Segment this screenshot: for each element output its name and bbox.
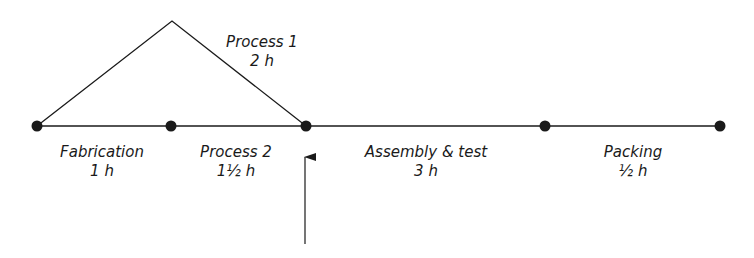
assembly-label: Assembly & test	[364, 143, 488, 161]
process-diagram: Process 1 2 h Fabrication 1 h Process 2 …	[0, 0, 754, 258]
process-1-label: Process 1	[226, 33, 298, 51]
fabrication-label: Fabrication	[60, 143, 144, 161]
packing-label: Packing	[604, 143, 662, 161]
process-1-duration: 2 h	[250, 52, 274, 70]
node-3	[301, 121, 312, 132]
node-5	[715, 121, 726, 132]
packing-duration: ½ h	[619, 162, 648, 180]
assembly-duration: 3 h	[414, 162, 438, 180]
node-2	[166, 121, 177, 132]
fabrication-duration: 1 h	[90, 162, 114, 180]
node-1	[32, 121, 43, 132]
node-4	[540, 121, 551, 132]
process-2-label: Process 2	[200, 143, 272, 161]
process-2-duration: 1½ h	[217, 162, 255, 180]
